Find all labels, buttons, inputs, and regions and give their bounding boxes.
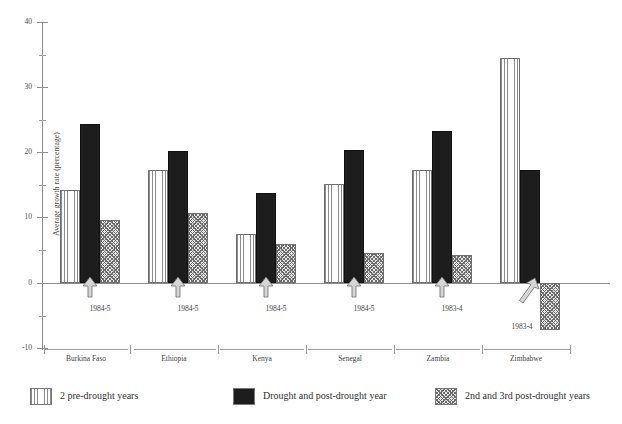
year-callout-arrow-kenya <box>256 276 276 298</box>
category-label-zambia: Zambia <box>427 355 450 363</box>
year-label-zambia: 1983-4 <box>441 305 462 313</box>
category-rule-senegal <box>308 349 392 350</box>
bar-ethiopia-pre-drought[interactable] <box>148 170 168 283</box>
bar-burkina-faso-post-drought[interactable] <box>100 220 120 283</box>
legend-item-pre-drought[interactable]: 2 pre-drought years <box>30 386 138 406</box>
year-callout-arrow-burkina-faso <box>80 276 100 298</box>
y-tick-label-30: 30 <box>25 83 33 91</box>
legend-item-drought[interactable]: Drought and post-drought year <box>233 386 387 406</box>
year-label-ethiopia: 1984-5 <box>177 305 198 313</box>
y-tick-label-neg10: -10 <box>22 344 32 352</box>
bar-group-kenya <box>218 18 306 350</box>
year-callout-arrow-ethiopia <box>168 276 188 298</box>
category-divider-0 <box>44 345 45 354</box>
category-label-kenya: Kenya <box>252 355 272 363</box>
year-label-burkina-faso: 1984-5 <box>89 305 110 313</box>
year-callout-arrow-zambia <box>432 276 452 298</box>
bar-senegal-post-drought[interactable] <box>364 253 384 283</box>
year-label-zimbabwe: 1983-4 <box>511 323 532 331</box>
category-axis: Burkina Faso Ethiopia Kenya Senegal Zamb… <box>42 349 610 371</box>
y-tick-label-10: 10 <box>25 213 33 221</box>
legend-label-post-drought: 2nd and 3rd post-drought years <box>465 391 590 401</box>
bar-zimbabwe-pre-drought[interactable] <box>500 58 520 283</box>
bar-group-senegal <box>306 18 394 350</box>
category-label-zimbabwe: Zimbabwe <box>510 355 542 363</box>
bar-kenya-pre-drought[interactable] <box>236 234 256 283</box>
bar-kenya-post-drought[interactable] <box>276 244 296 283</box>
bar-zambia-pre-drought[interactable] <box>412 170 432 283</box>
category-divider-3 <box>306 345 307 354</box>
year-label-senegal: 1984-5 <box>353 305 374 313</box>
bar-zambia-post-drought[interactable] <box>452 255 472 283</box>
legend-swatch-pre-drought-icon <box>30 388 52 405</box>
y-tick-label-40: 40 <box>25 18 33 26</box>
category-label-senegal: Senegal <box>338 355 362 363</box>
year-callout-arrow-senegal <box>344 276 364 298</box>
category-rule-burkina-faso <box>44 349 128 350</box>
legend-swatch-drought-icon <box>233 388 255 405</box>
legend-label-drought: Drought and post-drought year <box>263 391 387 401</box>
y-tick-label-20: 20 <box>25 148 33 156</box>
category-rule-zimbabwe <box>484 349 570 350</box>
bar-burkina-faso-drought[interactable] <box>80 124 100 283</box>
bar-zambia-drought[interactable] <box>432 131 452 283</box>
category-label-burkina-faso: Burkina Faso <box>66 355 106 363</box>
category-rule-kenya <box>220 349 304 350</box>
bar-zimbabwe-post-drought[interactable] <box>540 283 560 330</box>
category-divider-2 <box>218 345 219 354</box>
category-divider-4 <box>394 345 395 354</box>
bar-zimbabwe-drought[interactable] <box>520 170 540 283</box>
category-divider-1 <box>130 345 131 354</box>
plot-area: 40 30 20 10 0 -10 Average growth rate (p… <box>42 18 610 350</box>
bar-senegal-pre-drought[interactable] <box>324 184 344 283</box>
category-label-ethiopia: Ethiopia <box>161 355 186 363</box>
bar-kenya-drought[interactable] <box>256 193 276 283</box>
bar-group-ethiopia <box>130 18 218 350</box>
category-rule-ethiopia <box>134 349 216 350</box>
bar-ethiopia-post-drought[interactable] <box>188 213 208 283</box>
chart-legend: 2 pre-drought years Drought and post-dro… <box>30 386 610 410</box>
bar-group-zambia <box>394 18 482 350</box>
category-rule-zambia <box>396 349 480 350</box>
bar-burkina-faso-pre-drought[interactable] <box>60 190 80 283</box>
bar-chart-figure: 40 30 20 10 0 -10 Average growth rate (p… <box>0 0 622 424</box>
year-label-kenya: 1984-5 <box>265 305 286 313</box>
year-callout-arrow-zimbabwe <box>514 276 542 306</box>
legend-swatch-post-drought-icon <box>435 388 457 405</box>
legend-item-post-drought[interactable]: 2nd and 3rd post-drought years <box>435 386 590 406</box>
category-divider-5 <box>482 345 483 354</box>
category-divider-6 <box>570 345 571 354</box>
bar-group-burkina-faso <box>42 18 130 350</box>
y-tick-label-0: 0 <box>28 279 32 287</box>
bar-senegal-drought[interactable] <box>344 150 364 283</box>
bar-ethiopia-drought[interactable] <box>168 151 188 283</box>
legend-label-pre-drought: 2 pre-drought years <box>60 391 138 401</box>
